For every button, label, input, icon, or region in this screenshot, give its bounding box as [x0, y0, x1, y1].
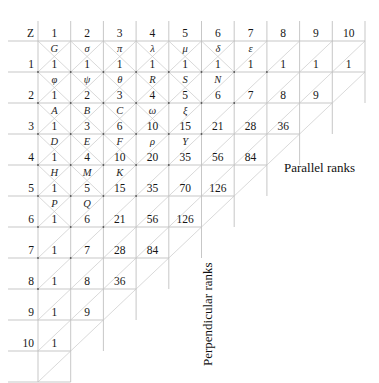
cell-label-r2c4: ξ — [169, 105, 202, 116]
cell-label-r2c2: C — [103, 105, 136, 116]
lattice-dot — [37, 195, 39, 197]
diagonal-up — [38, 351, 71, 382]
cell-number-r4c4: 35 — [169, 151, 202, 163]
row-header-5: 5 — [6, 182, 34, 194]
row-header-4: 4 — [6, 151, 34, 163]
lattice-dot — [103, 102, 105, 104]
cell-number-r6c4: 126 — [169, 213, 202, 225]
lattice-dot — [70, 226, 72, 228]
cell-label-r1c2: θ — [103, 74, 136, 85]
cell-number-r3c2: 6 — [103, 120, 136, 132]
row-header-9: 9 — [6, 306, 34, 318]
cell-number-r1c7: 1 — [267, 58, 300, 70]
cell-number-r4c6: 84 — [234, 151, 267, 163]
lattice-dot — [37, 257, 39, 259]
cell-number-r3c5: 21 — [202, 120, 235, 132]
cell-number-r1c9: 1 — [332, 58, 365, 70]
lattice-dot — [168, 133, 170, 135]
cell-number-r2c6: 7 — [234, 89, 267, 101]
lattice-dot — [201, 133, 203, 135]
cell-number-r6c3: 56 — [136, 213, 169, 225]
lattice-dot — [37, 226, 39, 228]
lattice-dot — [135, 71, 137, 73]
cell-label-r3c4: Y — [169, 136, 202, 147]
diagonal-up — [332, 72, 365, 103]
cell-number-r4c5: 56 — [202, 151, 235, 163]
cell-number-r10c0: 1 — [38, 337, 71, 349]
cell-label-r1c0: φ — [38, 74, 71, 85]
cell-number-r5c4: 70 — [169, 182, 202, 194]
cell-number-r8c2: 36 — [103, 275, 136, 287]
diagonal-up — [136, 258, 169, 289]
cell-label-r4c2: K — [103, 167, 136, 178]
cell-number-r3c3: 10 — [136, 120, 169, 132]
cell-label-r4c1: M — [71, 167, 104, 178]
lattice-dot — [103, 195, 105, 197]
diagonal-up — [202, 196, 235, 227]
lattice-dot — [135, 164, 137, 166]
cell-number-r0c7: 8 — [267, 27, 300, 39]
lattice-dot — [266, 71, 268, 73]
cell-number-r0c9: 10 — [332, 27, 365, 39]
cell-label-r1c3: R — [136, 74, 169, 85]
lattice-dot — [103, 71, 105, 73]
lattice-dot — [103, 226, 105, 228]
cell-number-r3c1: 3 — [71, 120, 104, 132]
row-header-3: 3 — [6, 120, 34, 132]
row-header-8: 8 — [6, 275, 34, 287]
cell-label-r3c0: D — [38, 136, 71, 147]
cell-number-r5c1: 5 — [71, 182, 104, 194]
lattice-dot — [70, 195, 72, 197]
row-header-7: 7 — [6, 244, 34, 256]
cell-number-r7c0: 1 — [38, 244, 71, 256]
cell-number-r6c1: 6 — [71, 213, 104, 225]
cell-number-r6c0: 1 — [38, 213, 71, 225]
cell-label-r0c1: σ — [71, 43, 104, 54]
cell-label-r0c4: μ — [169, 43, 202, 54]
lattice-dot — [37, 102, 39, 104]
cell-label-r3c2: F — [103, 136, 136, 147]
cell-number-r2c3: 4 — [136, 89, 169, 101]
diagonal-up — [103, 289, 136, 320]
cell-number-r0c5: 6 — [202, 27, 235, 39]
cell-number-r2c8: 9 — [300, 89, 333, 101]
cell-number-r7c3: 84 — [136, 244, 169, 256]
cell-label-r0c0: G — [38, 43, 71, 54]
cell-label-r3c3: ρ — [136, 136, 169, 147]
cell-number-r0c1: 2 — [71, 27, 104, 39]
arithmetic-triangle-figure: Z12345678910Gσπλμδε11111111111φψθRSN2123… — [0, 0, 379, 383]
cell-number-r2c5: 6 — [202, 89, 235, 101]
lattice-dot — [103, 164, 105, 166]
lattice-dot — [70, 133, 72, 135]
cell-number-r0c2: 3 — [103, 27, 136, 39]
cell-number-r1c1: 1 — [71, 58, 104, 70]
cell-label-r2c3: ω — [136, 105, 169, 116]
cell-number-r3c4: 15 — [169, 120, 202, 132]
cell-number-r0c4: 5 — [169, 27, 202, 39]
lattice-dot — [70, 71, 72, 73]
lattice-dot — [70, 164, 72, 166]
row-header-10: 10 — [6, 337, 34, 349]
cell-label-r0c2: π — [103, 43, 136, 54]
lattice-dot — [168, 164, 170, 166]
cell-label-r2c0: A — [38, 105, 71, 116]
cell-number-r9c0: 1 — [38, 306, 71, 318]
cell-number-r5c3: 35 — [136, 182, 169, 194]
cell-number-r5c5: 126 — [202, 182, 235, 194]
lattice-dot — [168, 71, 170, 73]
lattice-dot — [37, 71, 39, 73]
cell-number-r0c6: 7 — [234, 27, 267, 39]
cell-number-r2c1: 2 — [71, 89, 104, 101]
cell-number-r7c2: 28 — [103, 244, 136, 256]
lattice-dot — [135, 133, 137, 135]
lattice-dot — [37, 288, 39, 290]
lattice-dot — [135, 195, 137, 197]
cell-number-r3c6: 28 — [234, 120, 267, 132]
cell-number-r4c3: 20 — [136, 151, 169, 163]
cell-number-r0c3: 4 — [136, 27, 169, 39]
cell-number-r1c5: 1 — [202, 58, 235, 70]
lattice-dot — [135, 102, 137, 104]
cell-number-r4c0: 1 — [38, 151, 71, 163]
cell-number-r4c2: 10 — [103, 151, 136, 163]
cell-number-r4c1: 4 — [71, 151, 104, 163]
